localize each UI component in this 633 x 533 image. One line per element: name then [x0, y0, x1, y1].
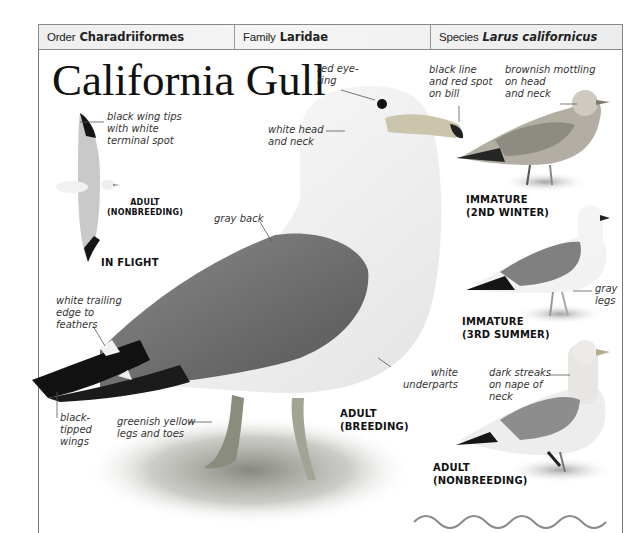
annotation-black-tipped-wings: black-tippedwings: [60, 412, 92, 448]
caption-immature-3rd-summer: IMMATURE(3RD SUMMER): [462, 315, 550, 341]
caption-flight-adult: ADULT(NONBREEDING): [105, 198, 185, 218]
annotation-wing-tips: black wing tipswith whiteterminal spot: [107, 111, 182, 147]
annotation-gray-back: gray back: [214, 213, 263, 225]
caption-adult-breeding: ADULT(BREEDING): [340, 407, 409, 433]
decorative-wave: [414, 516, 606, 528]
annotation-dark-streaks: dark streakson nape ofneck: [489, 367, 551, 403]
annotation-white-head: white headand neck: [268, 124, 324, 148]
annotation-gray-legs: graylegs: [595, 283, 618, 307]
caption-immature-2nd-winter: IMMATURE(2ND WINTER): [466, 193, 549, 219]
caption-in-flight: IN FLIGHT: [101, 256, 159, 269]
immature-3rd-summer-gull: [466, 205, 610, 324]
annotation-brownish-mottling: brownish mottlingon headand neck: [505, 64, 596, 100]
annotation-red-eye-ring: red eye-ring: [317, 63, 359, 87]
annotation-bill: black lineand red spoton bill: [429, 64, 492, 100]
immature-2nd-winter-gull: [456, 90, 610, 192]
caption-adult-nonbreeding: ADULT(NONBREEDING): [433, 461, 528, 487]
annotation-trailing-edge: white trailingedge tofeathers: [56, 295, 122, 331]
annotation-underparts: whiteunderparts: [403, 367, 458, 391]
annotation-legs-toes: greenish yellowlegs and toes: [117, 416, 196, 440]
